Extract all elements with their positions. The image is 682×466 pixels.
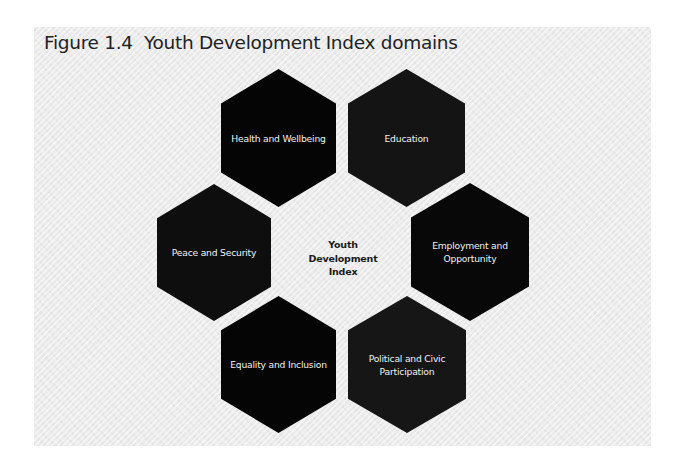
hex-label: Peace and Security xyxy=(166,246,262,259)
hex-label: Employment and Opportunity xyxy=(424,239,516,265)
figure-panel xyxy=(34,27,651,446)
hex-label: Political and Civic Participation xyxy=(361,352,453,378)
center-label-youth-development-index: Youth Development Index xyxy=(298,238,388,279)
center-label-line: Index xyxy=(298,265,388,279)
hex-label: Education xyxy=(379,132,435,145)
hex-label: Equality and Inclusion xyxy=(224,358,333,371)
hex-label: Health and Wellbeing xyxy=(225,132,331,145)
center-label-line: Development xyxy=(298,252,388,266)
figure-title: Figure 1.4 Youth Development Index domai… xyxy=(44,32,458,53)
center-label-line: Youth xyxy=(298,238,388,252)
